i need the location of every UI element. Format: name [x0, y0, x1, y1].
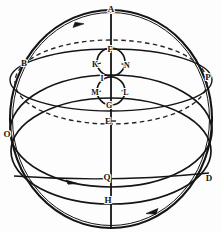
arrow-bottom-right-icon — [146, 209, 158, 215]
label-H: H — [104, 196, 111, 205]
label-K: K — [92, 61, 98, 69]
celestial-sphere-diagram: A B P O D F K N I M L G E Q H — [0, 0, 222, 232]
label-M: M — [91, 89, 99, 97]
label-P: P — [205, 73, 211, 82]
label-B: B — [21, 59, 27, 68]
label-D: D — [206, 174, 213, 183]
arrow-top-left-icon — [73, 22, 84, 27]
label-G: G — [106, 102, 112, 110]
label-E: E — [105, 117, 111, 126]
arrow-bottom-left-icon — [66, 180, 78, 184]
label-F: F — [108, 46, 113, 54]
label-L: L — [123, 89, 128, 97]
label-N: N — [124, 62, 130, 70]
label-A: A — [108, 5, 115, 14]
label-O: O — [3, 130, 10, 139]
label-Q: Q — [103, 173, 110, 182]
label-I: I — [100, 75, 103, 83]
